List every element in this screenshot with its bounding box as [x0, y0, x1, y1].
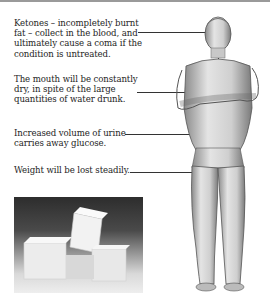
annotation-ketones: Ketones – incompletely burnt fat – colle… — [14, 18, 142, 59]
annotation-urine: Increased volume of urine carries away g… — [14, 128, 126, 148]
annotation-line: quantities of water drunk. — [14, 94, 138, 104]
annotation-line: ultimately cause a coma if the — [14, 38, 142, 48]
annotation-line: Ketones – incompletely burnt — [14, 18, 142, 28]
annotation-mouth: The mouth will be constantly dry, in spi… — [14, 74, 138, 105]
annotation-line: dry, in spite of the large — [14, 84, 138, 94]
annotation-line: condition is untreated. — [14, 49, 142, 59]
annotation-line: carries away glucose. — [14, 138, 126, 148]
annotation-weight: Weight will be lost steadily. — [14, 165, 130, 175]
annotation-line: The mouth will be constantly — [14, 74, 138, 84]
annotation-line: Weight will be lost steadily. — [14, 165, 130, 175]
annotation-line: fat – collect in the blood, and — [14, 28, 142, 38]
annotation-line: Increased volume of urine — [14, 128, 126, 138]
top-border — [0, 0, 270, 2]
human-figure-illustration — [140, 8, 270, 296]
sugar-cubes-image — [14, 197, 143, 293]
sugar-cubes-photo — [14, 197, 143, 293]
